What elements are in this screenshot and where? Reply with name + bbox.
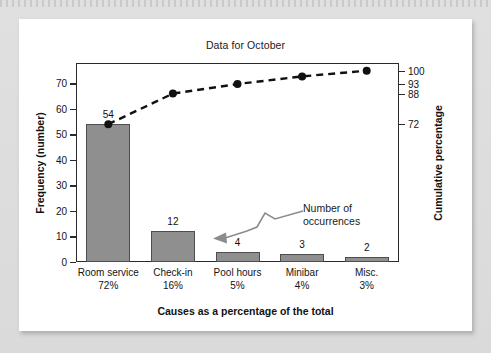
x-axis-label-percent: 5%: [214, 279, 262, 292]
y-axis-tick-label: 70: [56, 78, 67, 89]
y2-axis-tick: [399, 71, 405, 72]
y2-axis-tick-label: 93: [408, 79, 419, 90]
y-axis-tick-label: 10: [56, 231, 67, 242]
y2-axis-tick-label: 72: [408, 119, 419, 130]
y2-axis-title-label: Cumulative percentage: [432, 105, 444, 221]
y2-axis-tick-label: 88: [408, 88, 419, 99]
page-root: Data for October Frequency (number) Cumu…: [0, 0, 491, 353]
x-axis-label-check-in: Check-in16%: [153, 266, 192, 292]
cumulative-point-marker: [104, 120, 112, 128]
figure-card: Data for October Frequency (number) Cumu…: [19, 19, 472, 331]
cumulative-point-marker: [234, 80, 242, 88]
y-axis-tick: [70, 262, 76, 263]
x-axis-label-percent: 72%: [78, 279, 139, 292]
y-axis-title-label: Frequency (number): [34, 112, 46, 214]
chart-title: Data for October: [19, 39, 472, 51]
y2-axis-tick: [399, 84, 405, 85]
x-axis-label-misc: Misc.3%: [355, 266, 378, 292]
y-axis-tick-label: 20: [56, 205, 67, 216]
x-axis-label-percent: 16%: [153, 279, 192, 292]
cumulative-point-marker: [298, 72, 306, 80]
cumulative-point-marker: [363, 67, 371, 75]
y2-axis-tick: [399, 124, 405, 125]
x-axis-title: Causes as a percentage of the total: [19, 305, 472, 317]
x-axis-label-room-service: Room service72%: [78, 266, 139, 292]
x-axis-label-name: Minibar: [286, 267, 319, 278]
x-axis-label-name: Check-in: [153, 267, 192, 278]
x-axis-label-percent: 3%: [355, 279, 378, 292]
page-top-text-remnant: [0, 0, 491, 7]
x-axis-label-name: Room service: [78, 267, 139, 278]
y2-axis-tick: [399, 94, 405, 95]
y-axis-tick-label: 40: [56, 154, 67, 165]
x-axis-label-name: Misc.: [355, 267, 378, 278]
y2-axis-title: Cumulative percentage: [431, 63, 445, 262]
y-axis-tick-label: 30: [56, 180, 67, 191]
x-axis-label-pool-hours: Pool hours5%: [214, 266, 262, 292]
annotation-arrow-icon: [195, 207, 315, 247]
x-axis-label-percent: 4%: [286, 279, 319, 292]
pareto-chart: Data for October Frequency (number) Cumu…: [19, 19, 472, 331]
y-axis-tick-label: 50: [56, 129, 67, 140]
cumulative-line-path: [108, 71, 366, 125]
y-axis-tick-label: 60: [56, 103, 67, 114]
y2-axis-tick-label: 100: [408, 65, 425, 76]
y-axis-title: Frequency (number): [33, 63, 47, 262]
cumulative-point-marker: [169, 90, 177, 98]
x-axis-label-name: Pool hours: [214, 267, 262, 278]
y-axis-tick-label: 0: [61, 257, 67, 268]
x-axis-label-minibar: Minibar4%: [286, 266, 319, 292]
